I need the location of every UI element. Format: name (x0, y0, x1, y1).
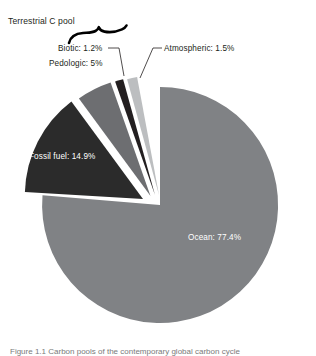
group-title-terrestrial-c-pool: Terrestrial C pool (8, 17, 75, 26)
leader-line-biotic (108, 48, 124, 76)
terrestrial-c-pool-brace-icon (69, 26, 127, 44)
slice-label-biotic: Biotic: 1.2% (58, 44, 102, 53)
slice-label-fossil-fuel: Fossil fuel: 14.9% (29, 152, 95, 161)
pie-chart-svg (0, 0, 316, 356)
slice-label-atmospheric: Atmospheric: 1.5% (164, 44, 234, 53)
slice-label-pedologic: Pedologic: 5% (49, 59, 103, 68)
figure-caption: Figure 1.1 Carbon pools of the contempor… (10, 347, 310, 356)
pie-chart-figure: Terrestrial C pool Biotic: 1.2% Pedologi… (0, 0, 316, 356)
slice-label-ocean: Ocean: 77.4% (188, 233, 241, 242)
leader-line-atmospheric (140, 48, 162, 78)
